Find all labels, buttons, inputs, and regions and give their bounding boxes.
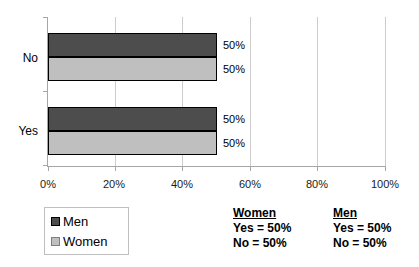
annotation-women-heading: Women: [233, 206, 291, 221]
bar-value-label-no-men: 50%: [223, 38, 245, 52]
x-tick-label-20: 20%: [103, 178, 125, 190]
bar-yes-women: [48, 131, 217, 155]
annotation-women-line-yes: Yes = 50%: [233, 221, 291, 236]
legend-item-women: Women: [51, 234, 108, 249]
bar-value-label-yes-men: 50%: [223, 112, 245, 126]
annotation-women: Women Yes = 50% No = 50%: [233, 206, 291, 251]
gridline-80: [317, 17, 318, 166]
bar-yes-men: [48, 107, 217, 131]
y-category-label-no: No: [4, 51, 38, 65]
y-tickmark-1: [43, 91, 47, 92]
annotation-men-line-yes: Yes = 50%: [333, 221, 391, 236]
legend-label-men: Men: [63, 214, 88, 229]
plot-area: 50%50%50%50%: [47, 17, 386, 167]
women-swatch-icon: [51, 237, 60, 246]
annotation-women-line-no: No = 50%: [233, 236, 291, 251]
y-tickmark-0: [43, 17, 47, 18]
bar-chart: 50%50%50%50% No Yes 0% 20% 40% 60% 80% 1…: [0, 0, 419, 267]
gridline-100: [385, 17, 386, 166]
bar-value-label-no-women: 50%: [223, 62, 245, 76]
x-tick-label-40: 40%: [171, 178, 193, 190]
annotation-men: Men Yes = 50% No = 50%: [333, 206, 391, 251]
bar-no-men: [48, 33, 217, 57]
x-tickmark-20: [115, 167, 116, 171]
legend-item-men: Men: [51, 214, 88, 229]
chart-legend: Men Women: [44, 207, 129, 255]
legend-label-women: Women: [63, 234, 108, 249]
x-tickmark-40: [182, 167, 183, 171]
x-tickmark-100: [385, 167, 386, 171]
x-tickmark-60: [250, 167, 251, 171]
x-tick-label-100: 100%: [371, 178, 399, 190]
annotation-men-heading: Men: [333, 206, 391, 221]
y-category-label-yes: Yes: [4, 124, 38, 138]
annotation-men-line-no: No = 50%: [333, 236, 391, 251]
x-tick-label-60: 60%: [239, 178, 261, 190]
bar-value-label-yes-women: 50%: [223, 136, 245, 150]
bar-no-women: [48, 57, 217, 81]
x-tickmark-0: [48, 167, 49, 171]
x-tick-label-0: 0%: [40, 178, 56, 190]
gridline-60: [250, 17, 251, 166]
y-tickmark-2: [43, 165, 47, 166]
men-swatch-icon: [51, 217, 60, 226]
x-tick-label-80: 80%: [306, 178, 328, 190]
x-tickmark-80: [317, 167, 318, 171]
